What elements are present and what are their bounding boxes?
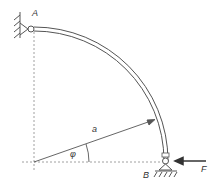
label-a: A [32,8,38,18]
wall-support-a [14,12,28,38]
dashed-axes [22,32,162,172]
ground-support-b [154,164,177,177]
curved-beam [34,27,168,161]
pin-b [163,158,169,164]
label-b: B [143,170,149,180]
curved-beam-diagram [0,0,218,195]
label-radius: a [92,124,97,134]
label-angle: φ [70,149,76,159]
label-force: F [201,164,207,174]
angle-arc [86,144,89,162]
pin-a [28,26,34,32]
